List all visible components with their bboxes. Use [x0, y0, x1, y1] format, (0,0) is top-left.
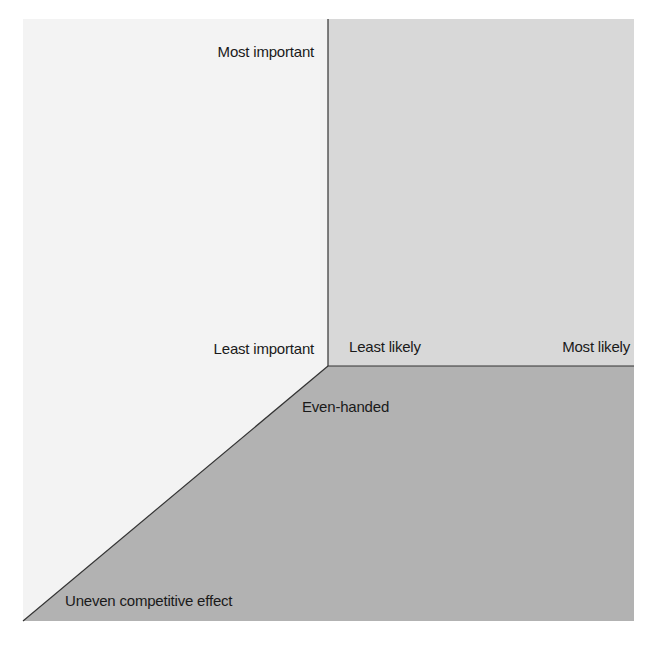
label-least-important: Least important	[214, 340, 314, 357]
label-uneven-competitive-effect: Uneven competitive effect	[65, 592, 232, 609]
label-even-handed: Even-handed	[302, 398, 389, 415]
label-least-likely: Least likely	[349, 338, 421, 355]
likelihood-panel	[328, 19, 634, 366]
label-most-likely: Most likely	[562, 338, 630, 355]
three-axis-diagram	[0, 0, 656, 649]
label-most-important: Most important	[218, 43, 314, 60]
